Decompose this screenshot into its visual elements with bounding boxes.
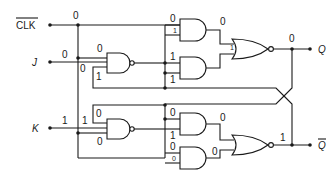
val-and4-out: 0 bbox=[212, 146, 218, 157]
nandj-feedback-wire bbox=[93, 67, 165, 88]
nand-j-gate bbox=[107, 53, 130, 73]
val-and1-bot: 1 bbox=[173, 27, 177, 34]
jk-flipflop-diagram: CLK J K Q Q 0 0 0 0 1 1 1 0 0 0 1 1 1 0 … bbox=[0, 0, 336, 187]
qbar-label: Q bbox=[318, 140, 326, 151]
and4-out-wire bbox=[206, 150, 234, 158]
val-and1-out: 0 bbox=[220, 16, 226, 27]
q-terminal bbox=[308, 47, 312, 51]
and-1-gate bbox=[180, 19, 206, 41]
val-and4-bot: 0 bbox=[172, 155, 176, 162]
val-clk: 0 bbox=[73, 10, 79, 21]
val-and4-top: 0 bbox=[170, 141, 176, 152]
nandk-feedback-wire bbox=[93, 105, 165, 123]
val-and2-top: 1 bbox=[170, 51, 176, 62]
val-k: 1 bbox=[62, 115, 68, 126]
j-terminal bbox=[48, 60, 52, 64]
nand-k-bubble bbox=[130, 127, 134, 131]
val-nandj-top: 0 bbox=[97, 43, 103, 54]
nor-q-gate bbox=[232, 39, 268, 59]
val-and2-bot: 1 bbox=[170, 74, 176, 85]
val-j: 0 bbox=[62, 49, 68, 60]
qbar-terminal bbox=[308, 143, 312, 147]
val-and1-top: 0 bbox=[170, 13, 176, 24]
q-label: Q bbox=[318, 44, 326, 55]
val-and3-top: 0 bbox=[170, 107, 176, 118]
nor-qbar-gate bbox=[232, 135, 268, 155]
val-nandk-top: 1 bbox=[82, 115, 88, 126]
nand-k-gate bbox=[107, 119, 130, 139]
k-label: K bbox=[32, 123, 40, 134]
clk-terminal bbox=[48, 23, 52, 27]
val-nandj-fb: 1 bbox=[96, 71, 102, 82]
val-and3-out: 0 bbox=[220, 112, 226, 123]
nor-q-bubble bbox=[269, 47, 274, 52]
j-label: J bbox=[31, 57, 38, 68]
and2-out-wire bbox=[206, 54, 234, 68]
and1-out-wire bbox=[206, 30, 234, 44]
val-nandk-fb: 0 bbox=[96, 108, 102, 119]
k-terminal bbox=[48, 126, 52, 130]
val-q: 0 bbox=[289, 33, 295, 44]
and3-out-wire bbox=[206, 124, 234, 140]
val-nandj-mid: 0 bbox=[80, 63, 86, 74]
nor-qbar-bubble bbox=[269, 143, 274, 148]
and-4-gate bbox=[180, 147, 206, 169]
nand-j-bubble bbox=[130, 61, 134, 65]
val-nor-top-in: 1 bbox=[230, 44, 234, 51]
clk-bar-label: CLK bbox=[16, 20, 36, 31]
val-and3-bot: 1 bbox=[170, 130, 176, 141]
and-3-gate bbox=[180, 113, 206, 135]
val-nandk-bot: 0 bbox=[97, 136, 103, 147]
val-qbar: 1 bbox=[280, 132, 286, 143]
and-2-gate bbox=[180, 57, 206, 79]
